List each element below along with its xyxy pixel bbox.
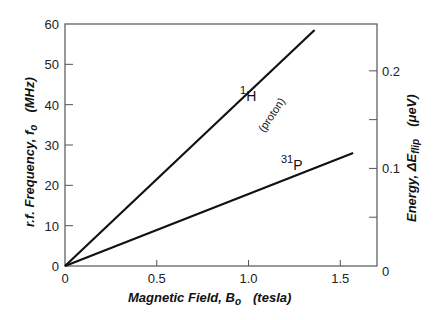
chart: 00.51.01.5 0102030405060 00.10.2 1H (pro… (0, 0, 438, 320)
plot-frame (65, 24, 377, 266)
y-tick-label: 10 (45, 219, 59, 234)
x-tick-label: 0 (61, 271, 68, 286)
x-axis-ticks: 00.51.01.5 (61, 260, 349, 286)
y-axis-ticks: 0102030405060 (45, 17, 73, 274)
y-axis-title: r.f. Frequency, fo(MHz) (22, 77, 39, 227)
x-axis-title: Magnetic Field, Bo(tesla) (128, 290, 291, 307)
y-tick-label: 20 (45, 178, 59, 193)
y2-axis-ticks: 00.10.2 (369, 64, 400, 279)
y-tick-label: 50 (45, 57, 59, 72)
x-tick-label: 1.5 (331, 271, 349, 286)
series-note-proton: (proton) (256, 95, 287, 134)
series-line-proton (65, 30, 315, 266)
y-tick-label: 40 (45, 98, 59, 113)
series-line-phosphorus (65, 153, 353, 266)
y2-axis-title: Energy, ΔEflip(μeV) (404, 94, 421, 222)
series-label-phosphorus: 31P (281, 153, 303, 173)
y-tick-label: 60 (45, 17, 59, 32)
x-tick-label: 1.0 (239, 271, 257, 286)
y2-tick-label: 0.1 (382, 161, 400, 176)
x-tick-label: 0.5 (148, 271, 166, 286)
y-tick-label: 0 (52, 259, 59, 274)
y2-tick-label: 0.2 (382, 64, 400, 79)
series-lines (65, 30, 353, 266)
y-tick-label: 30 (45, 138, 59, 153)
y2-tick-label: 0 (382, 264, 389, 279)
